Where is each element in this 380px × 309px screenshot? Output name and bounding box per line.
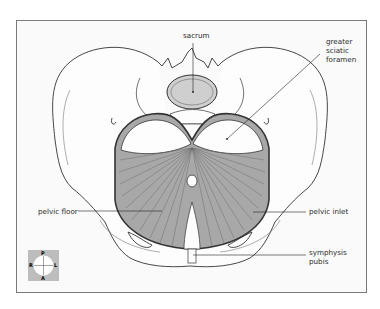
label-line: symphysis (309, 248, 347, 257)
label-line: sciatic (326, 46, 356, 55)
label-line: greater (326, 37, 356, 46)
label-symphysis-pubis: symphysis pubis (309, 248, 347, 266)
orientation-compass-icon: P A R L (28, 250, 59, 281)
compass-bottom: A (41, 275, 45, 281)
label-line: pubis (309, 257, 347, 266)
compass-top: P (41, 250, 45, 256)
compass-right: L (54, 262, 57, 268)
label-pelvic-floor: pelvic floor (38, 207, 78, 216)
label-sacrum: sacrum (183, 31, 210, 40)
label-line: foramen (326, 55, 356, 64)
compass-left: R (29, 262, 33, 268)
label-pelvic-inlet: pelvic inlet (309, 207, 348, 216)
label-greater-sciatic-foramen: greater sciatic foramen (326, 37, 356, 64)
